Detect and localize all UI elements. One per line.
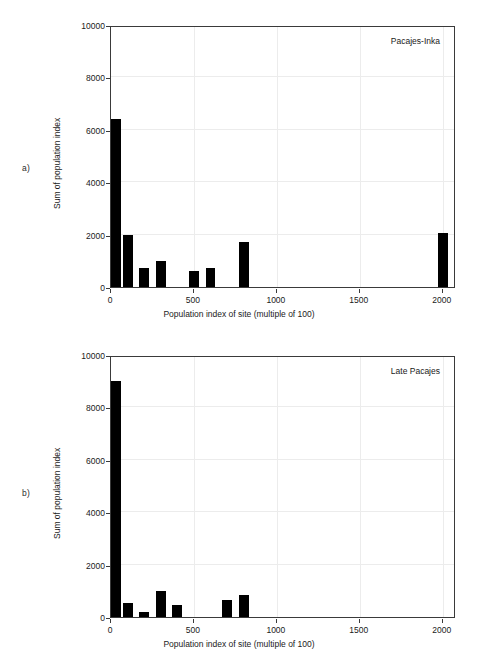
y-tick-label: 10000 <box>81 21 105 31</box>
panel-a-plot-inner <box>111 27 454 287</box>
panel-b-tag: b) <box>22 488 30 498</box>
bar <box>111 119 121 287</box>
x-tick-mark <box>359 619 360 623</box>
gridline-vertical <box>443 357 444 617</box>
x-tick-mark <box>193 619 194 623</box>
y-tick-label: 8000 <box>86 73 105 83</box>
y-tick-label: 0 <box>100 283 105 293</box>
x-tick-mark <box>442 619 443 623</box>
gridline-horizontal <box>111 129 454 130</box>
gridline-vertical <box>194 357 195 617</box>
bar <box>156 261 166 287</box>
gridline-vertical <box>360 357 361 617</box>
panel-b-x-axis-title: Population index of site (multiple of 10… <box>0 639 478 649</box>
x-tick-label: 1500 <box>349 295 368 305</box>
panel-b-plot-area: Late Pacajes <box>110 356 455 618</box>
gridline-horizontal <box>111 76 454 77</box>
x-tick-mark <box>110 289 111 293</box>
x-tick-label: 2000 <box>432 295 451 305</box>
bar <box>172 605 182 617</box>
gridline-vertical <box>277 27 278 287</box>
gridline-horizontal <box>111 406 454 407</box>
panel-a-series-label: Pacajes-Inka <box>391 36 440 46</box>
figure-two-panel-bar-charts: a) Sum of population index 0200040006000… <box>0 0 478 651</box>
panel-b-series-label: Late Pacajes <box>391 366 440 376</box>
panel-a: a) Sum of population index 0200040006000… <box>0 0 478 330</box>
x-tick-label: 2000 <box>432 625 451 635</box>
gridline-horizontal <box>111 564 454 565</box>
panel-b-plot-inner <box>111 357 454 617</box>
y-tick-label: 10000 <box>81 351 105 361</box>
gridline-vertical <box>277 357 278 617</box>
x-tick-label: 0 <box>108 625 113 635</box>
y-tick-label: 4000 <box>86 178 105 188</box>
y-tick-label: 8000 <box>86 403 105 413</box>
x-tick-mark <box>442 289 443 293</box>
x-tick-mark <box>193 289 194 293</box>
panel-a-x-axis-title: Population index of site (multiple of 10… <box>0 309 478 319</box>
x-tick-mark <box>276 289 277 293</box>
gridline-horizontal <box>111 459 454 460</box>
y-tick-label: 2000 <box>86 231 105 241</box>
gridline-vertical <box>194 27 195 287</box>
bar <box>139 612 149 617</box>
bar <box>139 268 149 287</box>
bar <box>206 268 216 287</box>
panel-a-tag: a) <box>22 163 30 173</box>
y-tick-label: 4000 <box>86 508 105 518</box>
y-tick-label: 2000 <box>86 561 105 571</box>
bar <box>189 271 199 287</box>
x-tick-label: 1000 <box>266 295 285 305</box>
gridline-vertical <box>360 27 361 287</box>
gridline-horizontal <box>111 234 454 235</box>
bar <box>156 591 166 617</box>
bar <box>222 600 232 617</box>
panel-a-plot-area: Pacajes-Inka <box>110 26 455 288</box>
bar <box>239 595 249 617</box>
x-tick-label: 500 <box>186 625 200 635</box>
x-tick-mark <box>359 289 360 293</box>
y-tick-label: 6000 <box>86 456 105 466</box>
bar <box>123 603 133 617</box>
bar <box>123 235 133 287</box>
y-tick-label: 6000 <box>86 126 105 136</box>
bar <box>239 242 249 287</box>
gridline-horizontal <box>111 511 454 512</box>
gridline-horizontal <box>111 181 454 182</box>
panel-b-y-axis-title: Sum of population index <box>52 448 62 539</box>
x-tick-label: 1500 <box>349 625 368 635</box>
x-tick-label: 1000 <box>266 625 285 635</box>
x-tick-mark <box>110 619 111 623</box>
bar <box>111 381 121 617</box>
x-tick-mark <box>276 619 277 623</box>
bar <box>438 233 448 287</box>
x-tick-label: 500 <box>186 295 200 305</box>
panel-a-y-axis-title: Sum of population index <box>52 118 62 209</box>
x-tick-label: 0 <box>108 295 113 305</box>
y-tick-label: 0 <box>100 613 105 623</box>
panel-b: b) Sum of population index 0200040006000… <box>0 330 478 651</box>
